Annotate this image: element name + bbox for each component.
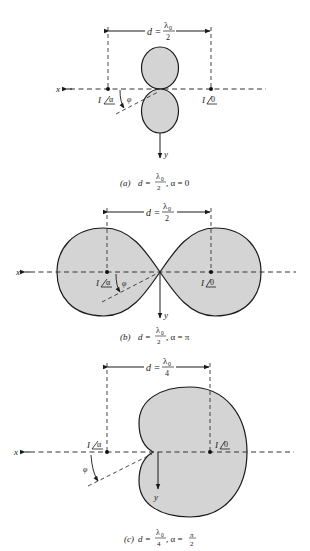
svg-text:4: 4 bbox=[165, 369, 169, 378]
svg-text:, α = 0: , α = 0 bbox=[166, 178, 190, 188]
lower-lobe bbox=[142, 89, 179, 133]
svg-text:2: 2 bbox=[166, 33, 170, 42]
phi-arc bbox=[91, 455, 98, 481]
source-left-dot bbox=[106, 87, 110, 91]
svg-text:0: 0 bbox=[210, 278, 214, 287]
panel-c: d = λ 0 4 x I α I 0 φ y bbox=[13, 356, 294, 548]
svg-text:4: 4 bbox=[157, 540, 161, 548]
svg-text:d =: d = bbox=[138, 534, 151, 544]
svg-text:λ: λ bbox=[156, 172, 160, 181]
svg-text:0: 0 bbox=[169, 25, 172, 31]
dimension-label: d = λ 0 4 bbox=[146, 356, 174, 378]
dimension-label: d = λ 0 2 bbox=[147, 20, 175, 42]
source-right-dot bbox=[208, 450, 212, 454]
source-left-dot bbox=[105, 450, 109, 454]
y-axis-label: y bbox=[163, 310, 168, 320]
dimension-label: d = λ 0 2 bbox=[146, 201, 174, 223]
svg-text:d =: d = bbox=[138, 178, 151, 188]
phi-label: φ bbox=[127, 95, 132, 104]
phi-label: φ bbox=[122, 279, 127, 288]
phi-label: φ bbox=[83, 465, 88, 474]
source-left-label: I α bbox=[86, 440, 103, 450]
svg-text:2: 2 bbox=[157, 184, 161, 192]
svg-text:I: I bbox=[201, 95, 206, 105]
antenna-array-patterns-figure: d = λ 0 2 x I α I 0 φ y bbox=[0, 0, 310, 551]
caption-c: (c) d = λ 0 4 , α = π 2 bbox=[124, 528, 196, 548]
svg-text:0: 0 bbox=[161, 532, 164, 538]
svg-text:d =: d = bbox=[146, 362, 160, 373]
svg-text:d =: d = bbox=[146, 207, 160, 218]
x-axis-label: x bbox=[15, 267, 20, 277]
svg-text:0: 0 bbox=[168, 361, 171, 367]
svg-text:0: 0 bbox=[168, 206, 171, 212]
svg-text:(a): (a) bbox=[120, 178, 131, 188]
upper-lobe bbox=[142, 47, 179, 89]
svg-text:α: α bbox=[109, 95, 114, 104]
svg-text:0: 0 bbox=[161, 176, 164, 182]
svg-text:2: 2 bbox=[190, 540, 194, 548]
svg-text:2: 2 bbox=[157, 338, 161, 346]
svg-text:d =: d = bbox=[147, 26, 161, 37]
svg-text:d =: d = bbox=[138, 332, 151, 342]
phi-arc bbox=[120, 90, 124, 108]
x-axis-label: x bbox=[55, 84, 60, 94]
source-left-label: I α bbox=[97, 95, 115, 105]
svg-text:(c): (c) bbox=[124, 534, 134, 544]
svg-text:0: 0 bbox=[161, 330, 164, 336]
svg-text:0: 0 bbox=[224, 440, 228, 449]
svg-text:2: 2 bbox=[165, 214, 169, 223]
source-left-dot bbox=[105, 270, 109, 274]
source-right-label: I 0 bbox=[201, 95, 217, 105]
svg-text:I: I bbox=[86, 440, 91, 450]
source-right-dot bbox=[209, 270, 213, 274]
svg-text:I: I bbox=[97, 95, 102, 105]
svg-text:λ: λ bbox=[156, 326, 160, 335]
svg-text:, α =: , α = bbox=[166, 534, 183, 544]
svg-text:α: α bbox=[97, 440, 102, 449]
caption-a: (a) d = λ 0 2 , α = 0 bbox=[120, 172, 190, 192]
panel-a: d = λ 0 2 x I α I 0 φ y bbox=[55, 20, 266, 192]
source-right-dot bbox=[209, 87, 213, 91]
caption-b: (b) d = λ 0 2 , α = π bbox=[120, 326, 190, 346]
y-axis-label: y bbox=[163, 149, 168, 159]
svg-text:0: 0 bbox=[211, 95, 215, 104]
x-axis-label: x bbox=[13, 447, 18, 457]
y-axis-label: y bbox=[153, 492, 158, 502]
svg-text:, α = π: , α = π bbox=[166, 332, 190, 342]
svg-text:(b): (b) bbox=[120, 332, 131, 342]
panel-b: d = λ 0 2 x I α I 0 φ y bbox=[15, 201, 296, 346]
svg-text:λ: λ bbox=[156, 528, 160, 537]
